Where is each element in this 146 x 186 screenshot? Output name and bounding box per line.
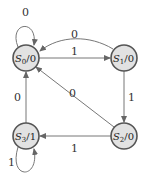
state-s1: S1/0 [111,45,137,71]
label-s3-s3: 1 [8,156,15,169]
edge-s3-s3 [16,147,35,172]
state-diagram: 0 0 1 1 0 1 0 1 S0/0 S1/0 S2/0 S3/1 [0,0,146,186]
state-s0: S0/0 [13,45,39,71]
label-s1-s0: 0 [71,28,78,41]
state-s2: S2/0 [111,123,137,149]
label-s0-s0: 0 [22,6,29,19]
label-s2-s0: 0 [69,87,76,100]
label-s1-s2: 1 [128,91,135,104]
label-s3-s0: 0 [14,91,21,104]
edge-s0-s0 [16,26,34,47]
label-s2-s3: 1 [71,142,78,155]
state-s3: S3/1 [13,123,39,149]
label-s0-s1: 1 [71,45,78,58]
